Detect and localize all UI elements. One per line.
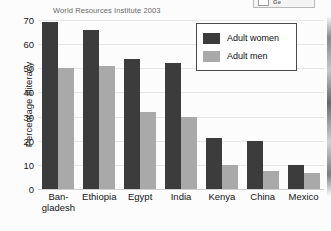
y-tick-label: 60 [12,39,34,50]
y-tick-label: 20 [12,136,34,147]
x-label-ethiopia: Ethiopia [79,191,120,213]
legend-label: Adult men [227,51,268,61]
bar-group-bangladesh [38,20,79,189]
chip-label: Ge [273,0,281,6]
bar-group-ethiopia [79,20,120,189]
bar-mexico-adult-men [304,173,320,189]
bar-kenya-adult-women [206,138,222,189]
checkbox-icon[interactable] [258,0,269,6]
bar-ethiopia-adult-men [99,66,115,189]
bar-bangladesh-adult-women [42,22,58,189]
y-axis-title: Percentage illiteracy [23,30,34,180]
y-tick-label: 50 [12,63,34,74]
bar-bangladesh-adult-men [58,68,74,189]
bar-mexico-adult-women [288,165,304,189]
legend-swatch-icon [203,51,220,62]
x-axis-labels: Ban- gladeshEthiopiaEgyptIndiaKenyaChina… [38,191,324,213]
bar-chart-figure: Ge World Resources Institute 2003 Percen… [0,0,331,231]
y-tick-label: 0 [12,184,34,195]
bar-india-adult-men [181,117,197,189]
x-label-china: China [242,191,283,213]
legend-item-adult-women: Adult women [203,33,290,44]
bar-kenya-adult-men [222,165,238,189]
source-note: World Resources Institute 2003 [53,6,161,15]
bar-india-adult-women [165,63,181,189]
x-label-india: India [161,191,202,213]
bar-china-adult-women [247,141,263,189]
y-tick-label: 70 [12,15,34,26]
x-label-kenya: Kenya [201,191,242,213]
scan-edge-artifact [327,16,331,196]
x-label-egypt: Egypt [120,191,161,213]
bar-group-egypt [120,20,161,189]
legend-swatch-icon [203,33,220,44]
bar-china-adult-men [263,171,279,189]
y-tick-label: 30 [12,112,34,123]
x-label-bangladesh: Ban- gladesh [38,191,79,213]
bar-ethiopia-adult-women [83,30,99,189]
legend-item-adult-men: Adult men [203,51,290,62]
bar-egypt-adult-women [124,59,140,189]
y-tick-0: 0 [38,189,324,190]
chart-legend: Adult women Adult men [196,23,297,71]
y-tick-label: 10 [12,160,34,171]
cut-off-toolbar-chip[interactable]: Ge [253,0,315,8]
y-tick-label: 40 [12,87,34,98]
legend-label: Adult women [227,33,279,43]
bar-egypt-adult-men [140,112,156,189]
x-label-mexico: Mexico [283,191,324,213]
